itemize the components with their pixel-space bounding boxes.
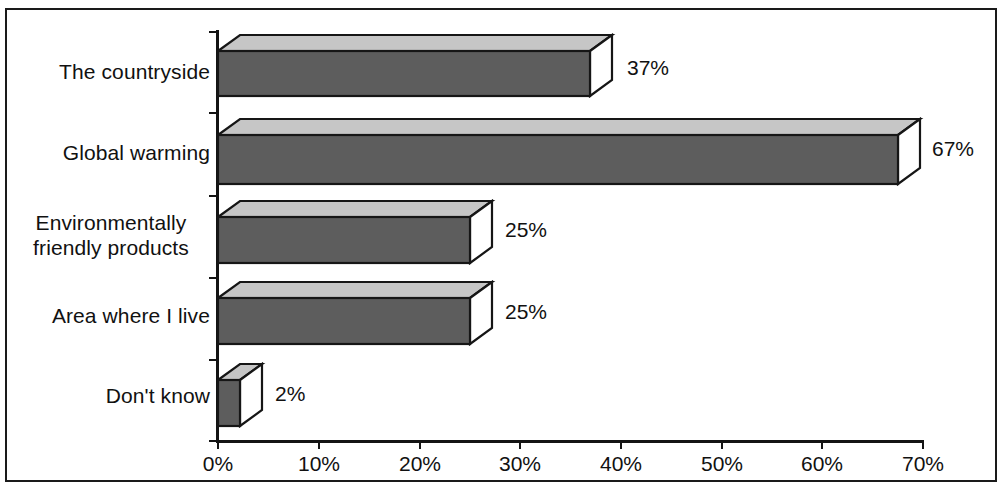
category-label-dont-know: Don't know xyxy=(106,383,210,408)
bar-value-label: 25% xyxy=(505,300,547,324)
x-tick-label-7: 70% xyxy=(883,452,963,476)
bar-3d-shape xyxy=(216,113,946,198)
bar-3d-shape xyxy=(216,33,636,113)
x-tick-label-0: 0% xyxy=(178,452,258,476)
x-axis-tick xyxy=(721,440,723,449)
x-axis-tick xyxy=(620,440,622,449)
plot-area: 0% 10% 20% 30% 40% 50% 60% 70% The count… xyxy=(0,0,1004,493)
category-label-global-warming: Global warming xyxy=(63,140,210,165)
category-label-environmentally-friendly-products: Environmentally friendly products xyxy=(12,210,210,260)
x-axis-tick xyxy=(821,440,823,449)
x-tick-label-4: 40% xyxy=(581,452,661,476)
chart-figure: 0% 10% 20% 30% 40% 50% 60% 70% The count… xyxy=(0,0,1004,493)
x-axis-tick xyxy=(519,440,521,449)
x-axis-line xyxy=(216,440,924,443)
bar-value-label: 2% xyxy=(275,382,305,406)
x-tick-label-1: 10% xyxy=(279,452,359,476)
x-axis-tick xyxy=(217,440,219,449)
bar-3d-shape xyxy=(216,197,526,277)
bar-3d-shape xyxy=(216,278,526,358)
x-axis-tick xyxy=(419,440,421,449)
x-axis-tick xyxy=(922,440,924,449)
x-tick-label-3: 30% xyxy=(480,452,560,476)
bar-value-label: 25% xyxy=(505,218,547,242)
x-tick-label-5: 50% xyxy=(682,452,762,476)
bar-value-label: 67% xyxy=(932,137,974,161)
x-tick-label-2: 20% xyxy=(380,452,460,476)
bar-value-label: 37% xyxy=(627,56,669,80)
category-label-the-countryside: The countryside xyxy=(59,59,210,84)
category-label-area-where-i-live: Area where I live xyxy=(52,303,210,328)
x-tick-label-6: 60% xyxy=(782,452,862,476)
x-axis-tick xyxy=(318,440,320,449)
